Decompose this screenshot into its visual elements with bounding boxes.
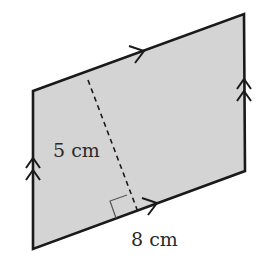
base-label: 8 cm bbox=[131, 228, 178, 250]
parallelogram-diagram: 5 cm 8 cm bbox=[0, 0, 263, 272]
height-label: 5 cm bbox=[53, 139, 100, 161]
